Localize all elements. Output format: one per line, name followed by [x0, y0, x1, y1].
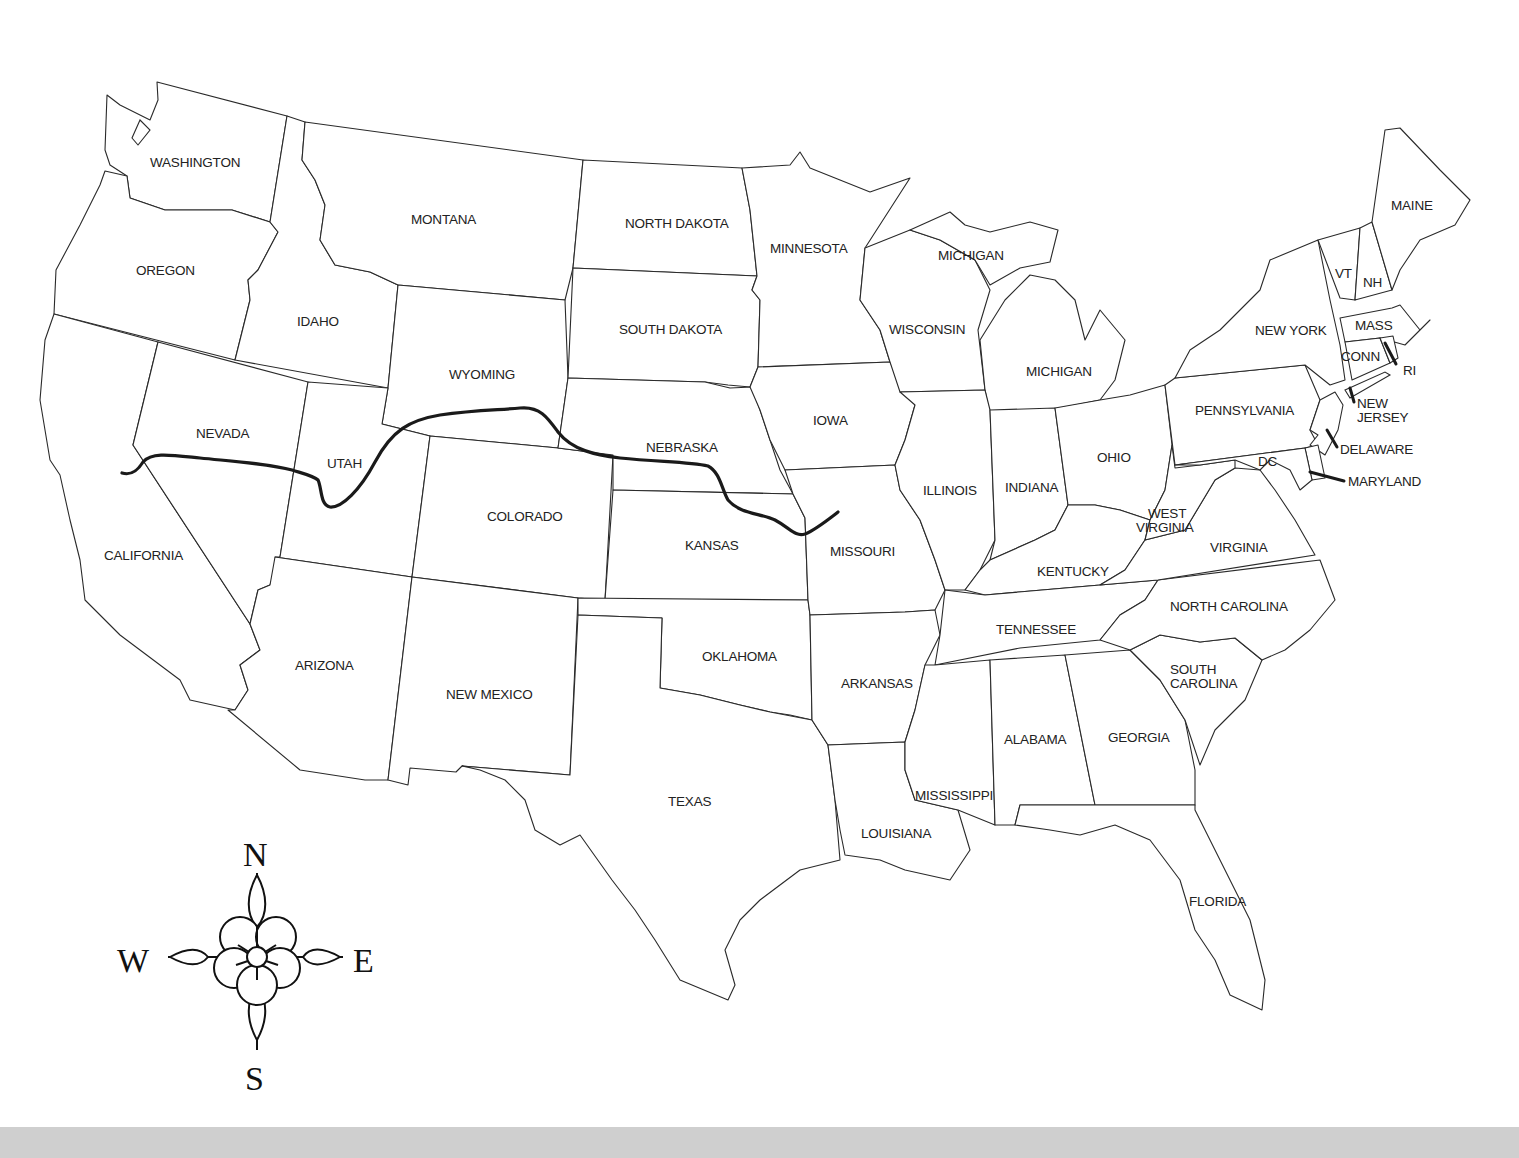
label-dc: DC	[1258, 454, 1278, 469]
label-colorado: COLORADO	[487, 509, 563, 524]
label-arkansas: ARKANSAS	[841, 676, 913, 691]
us-map: WASHINGTON OREGON CALIFORNIA IDAHO NEVAD…	[0, 0, 1519, 1158]
state-michigan-lower[interactable]	[980, 275, 1125, 415]
label-mississippi: MISSISSIPPI	[915, 788, 993, 803]
label-connecticut: CONN	[1341, 349, 1380, 364]
label-montana: MONTANA	[411, 212, 476, 227]
label-idaho: IDAHO	[297, 314, 339, 329]
state-new-mexico[interactable]	[388, 577, 578, 785]
compass-west-label: W	[117, 942, 150, 979]
label-new-jersey-1: NEW	[1357, 396, 1388, 411]
compass-flower	[214, 917, 300, 1005]
label-wyoming: WYOMING	[449, 367, 515, 382]
label-oklahoma: OKLAHOMA	[702, 649, 777, 664]
label-indiana: INDIANA	[1005, 480, 1059, 495]
label-alabama: ALABAMA	[1004, 732, 1067, 747]
compass-rose: N S W E	[117, 836, 374, 1097]
compass-west-leaf	[170, 950, 208, 965]
label-wisconsin: WISCONSIN	[889, 322, 965, 337]
label-ohio: OHIO	[1097, 450, 1131, 465]
label-oregon: OREGON	[136, 263, 195, 278]
label-delaware: DELAWARE	[1340, 442, 1413, 457]
label-washington: WASHINGTON	[150, 155, 240, 170]
label-new-mexico: NEW MEXICO	[446, 687, 533, 702]
label-west-virginia-1: WEST	[1148, 506, 1186, 521]
label-iowa: IOWA	[813, 413, 848, 428]
label-south-dakota: SOUTH DAKOTA	[619, 322, 722, 337]
label-arizona: ARIZONA	[295, 658, 354, 673]
label-south-carolina-2: CAROLINA	[1170, 676, 1238, 691]
label-maine: MAINE	[1391, 198, 1433, 213]
label-massachusetts: MASS	[1355, 318, 1393, 333]
label-nebraska: NEBRASKA	[646, 440, 718, 455]
compass-north-label: N	[243, 836, 268, 873]
label-california: CALIFORNIA	[104, 548, 183, 563]
label-west-virginia-2: VIRGINIA	[1136, 520, 1194, 535]
label-pennsylvania: PENNSYLVANIA	[1195, 403, 1294, 418]
label-south-carolina-1: SOUTH	[1170, 662, 1216, 677]
label-nevada: NEVADA	[196, 426, 250, 441]
label-missouri: MISSOURI	[830, 544, 895, 559]
label-kansas: KANSAS	[685, 538, 739, 553]
label-vermont: VT	[1335, 266, 1352, 281]
label-virginia: VIRGINIA	[1210, 540, 1268, 555]
label-minnesota: MINNESOTA	[770, 241, 848, 256]
label-florida: FLORIDA	[1189, 894, 1246, 909]
compass-south-label: S	[245, 1060, 264, 1097]
label-rhode-island: RI	[1403, 363, 1416, 378]
compass-north-leaf	[249, 875, 266, 927]
label-utah: UTAH	[327, 456, 362, 471]
label-michigan-lower: MICHIGAN	[1026, 364, 1092, 379]
label-new-jersey-2: JERSEY	[1357, 410, 1409, 425]
label-maryland: MARYLAND	[1348, 474, 1422, 489]
label-north-carolina: NORTH CAROLINA	[1170, 599, 1288, 614]
label-new-york: NEW YORK	[1255, 323, 1327, 338]
label-illinois: ILLINOIS	[923, 483, 977, 498]
label-texas: TEXAS	[668, 794, 711, 809]
label-michigan-upper: MICHIGAN	[938, 248, 1004, 263]
compass-east-leaf	[303, 950, 340, 965]
bottom-grey-band	[0, 1127, 1519, 1158]
label-north-dakota: NORTH DAKOTA	[625, 216, 729, 231]
label-georgia: GEORGIA	[1108, 730, 1170, 745]
label-tennessee: TENNESSEE	[996, 622, 1076, 637]
label-kentucky: KENTUCKY	[1037, 564, 1109, 579]
compass-east-label: E	[353, 942, 374, 979]
label-new-hampshire: NH	[1363, 275, 1382, 290]
state-new-york[interactable]	[1175, 240, 1345, 385]
label-louisiana: LOUISIANA	[861, 826, 931, 841]
